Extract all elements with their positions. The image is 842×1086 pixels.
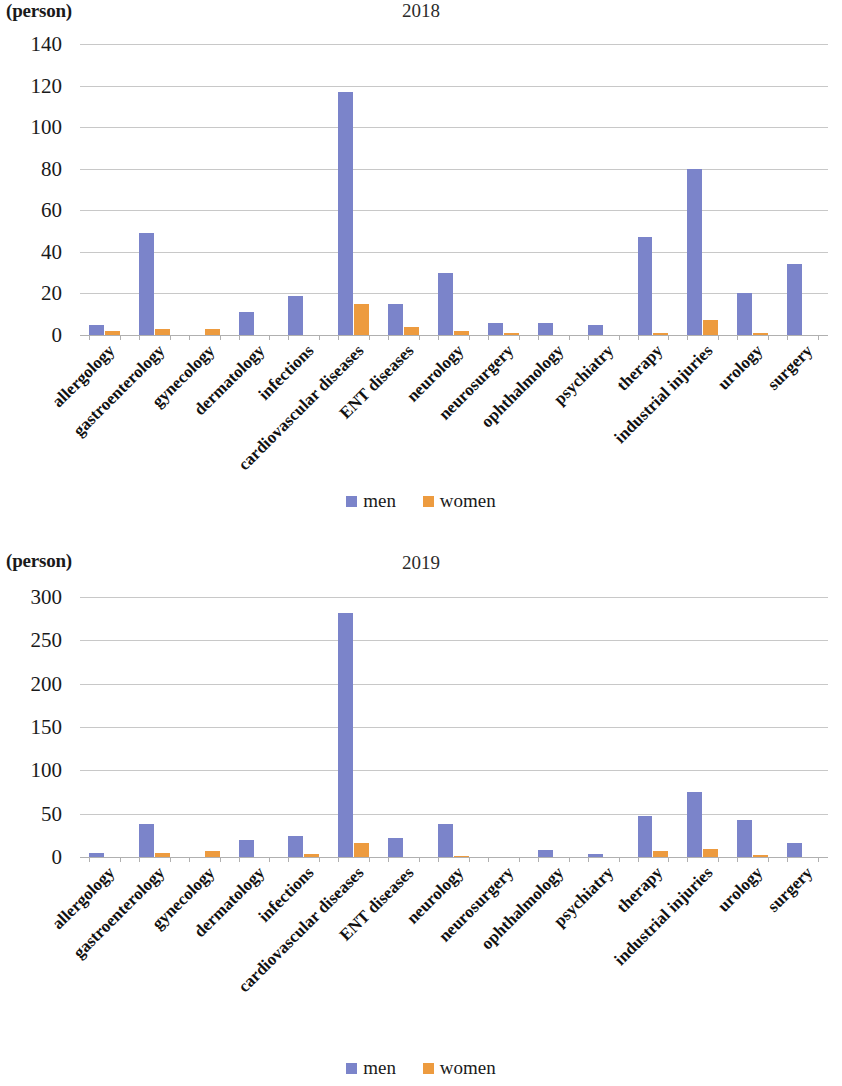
bar-group [479,44,529,335]
bar-group [678,597,728,857]
x-axis-tickmark [619,335,620,340]
legend-swatch-women-icon [423,496,434,507]
x-axis-tickmark [569,335,570,340]
x-axis-tickmark [319,857,320,862]
legend-2018: men women [0,488,842,512]
bar-men [438,824,453,857]
x-axis-tickmark [288,857,289,862]
x-axis-tickmark [338,335,339,340]
x-axis-labels-2019: allergologygastroenterologygynecologyder… [0,863,842,983]
x-axis-tickmark [718,335,719,340]
bar-men [538,850,553,857]
legend-item-men-2019: men [346,1057,396,1079]
bar-women [354,843,369,857]
bar-women [454,331,469,335]
bar-group [329,597,379,857]
x-axis-tickmark [588,857,589,862]
bar-women [354,304,369,335]
y-axis-tick-label: 200 [0,671,62,696]
legend-item-men-2018: men [346,490,396,512]
bar-men [288,296,303,335]
x-axis-tickmark [120,335,121,340]
x-axis-tickmark [488,857,489,862]
bar-group [629,44,679,335]
bar-group [230,44,280,335]
bar-men [288,836,303,857]
x-axis-tickmark [89,857,90,862]
bar-women [155,853,170,857]
bar-men [588,854,603,857]
x-axis-tickmark [519,335,520,340]
y-axis-tick-label: 150 [0,715,62,740]
x-axis-tickmark [488,335,489,340]
bar-group [180,597,230,857]
x-axis-tickmark [538,857,539,862]
bar-group [279,597,329,857]
bar-group [629,597,679,857]
bar-women [653,333,668,335]
y-axis-tick-label: 40 [0,239,62,264]
gridline [80,857,828,858]
bar-men [737,293,752,335]
x-axis-tickmark [388,335,389,340]
bar-group [130,44,180,335]
bar-men [687,169,702,335]
bar-group [180,44,230,335]
x-axis-tickmark [469,857,470,862]
legend-swatch-men-icon [346,496,357,507]
bar-women [753,855,768,857]
plot-area-2018 [80,44,828,335]
legend-item-women-2018: women [423,490,496,512]
bar-women [504,333,519,335]
x-axis-labels-2018: allergologygastroenterologygynecologyder… [0,341,842,461]
x-axis-tickmark [768,335,769,340]
bar-group [479,597,529,857]
x-axis-tickmark [239,335,240,340]
x-axis-tickmark [737,857,738,862]
x-axis-tickmark [718,857,719,862]
bar-men [737,820,752,857]
x-axis-tickmark [588,335,589,340]
x-axis-tickmark [419,335,420,340]
bar-men [538,323,553,335]
plot-area-2019 [80,597,828,857]
bar-men [687,792,702,857]
x-axis-tickmark [189,335,190,340]
bar-group [728,44,778,335]
bar-men [139,824,154,857]
bar-men [338,613,353,857]
bar-group [579,44,629,335]
bar-group [429,597,479,857]
x-axis-tickmark [538,335,539,340]
x-axis-tickmark [170,857,171,862]
bar-women [155,329,170,335]
y-axis-tick-label: 80 [0,156,62,181]
bar-men [638,237,653,335]
legend-swatch-men-icon [346,1063,357,1074]
x-axis-tickmark [338,857,339,862]
bar-women [703,849,718,857]
y-axis-tick-label: 300 [0,585,62,610]
x-axis-tickmark [89,335,90,340]
x-axis-tickmark [768,857,769,862]
bar-men [338,92,353,335]
legend-label-men: men [363,1057,396,1078]
bar-group [529,597,579,857]
bars-2019 [80,597,828,857]
x-axis-tickmark [737,335,738,340]
chart-block-2018: (person) 2018 020406080100120140 allergo… [0,0,842,530]
x-axis-tickmark [170,335,171,340]
bar-group [329,44,379,335]
bar-group [778,597,828,857]
y-axis-tick-label: 120 [0,73,62,98]
x-axis-tickmark [818,335,819,340]
bars-2018 [80,44,828,335]
bar-men [638,816,653,857]
bar-men [588,325,603,335]
x-axis-tickmark [687,857,688,862]
bar-men [787,843,802,857]
bar-women [753,333,768,335]
x-axis-tickmark [139,857,140,862]
legend-swatch-women-icon [423,1063,434,1074]
y-axis-tick-label: 100 [0,758,62,783]
